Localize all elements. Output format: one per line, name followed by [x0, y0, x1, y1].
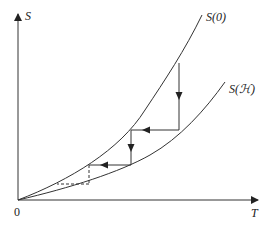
x-axis-label: T — [251, 207, 258, 219]
diagram-svg — [0, 0, 270, 229]
diagram-canvas: S T 0 S(0) S(ℋ) — [0, 0, 270, 229]
curve-s0-label: S(0) — [206, 11, 226, 23]
arrowhead-down-icon — [128, 144, 135, 152]
curve-sh-label: S(ℋ) — [229, 83, 255, 95]
arrowhead-left-icon — [100, 162, 108, 169]
y-axis-label: S — [25, 10, 31, 22]
arrowhead-down-icon — [176, 92, 183, 100]
arrowhead-left-icon — [142, 127, 150, 134]
curve-sh — [18, 82, 225, 200]
origin-label: 0 — [14, 206, 20, 218]
curve-s0 — [18, 15, 202, 200]
